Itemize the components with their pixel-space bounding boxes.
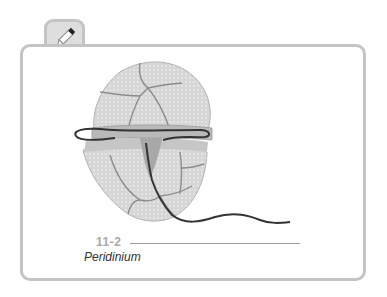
figure-number: 11-2 bbox=[96, 235, 121, 249]
caption-divider bbox=[130, 243, 300, 244]
epitheca bbox=[94, 62, 211, 133]
figure-caption: Peridinium bbox=[84, 250, 141, 264]
peridinium-illustration bbox=[0, 0, 387, 297]
